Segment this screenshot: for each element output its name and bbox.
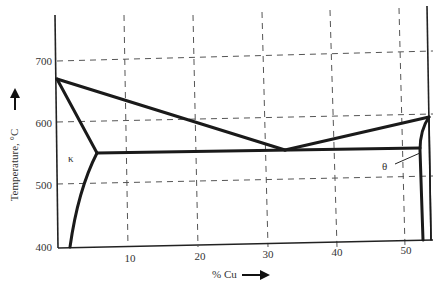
liquidus-right-line xyxy=(285,117,429,150)
kappa-label: κ xyxy=(68,152,74,164)
phase-boundaries xyxy=(57,79,431,247)
svg-text:500: 500 xyxy=(36,179,53,191)
svg-text:50: 50 xyxy=(401,244,413,256)
svg-text:30: 30 xyxy=(263,248,275,260)
svg-text:20: 20 xyxy=(195,250,207,262)
theta-right-line xyxy=(429,117,431,240)
theta-label: θ xyxy=(382,160,387,172)
phase-diagram: κ θ 400 500 600 700 10 20 30 40 50 % Cu … xyxy=(0,0,446,287)
svg-text:10: 10 xyxy=(125,252,137,264)
theta-leader xyxy=(395,153,420,164)
axes xyxy=(55,6,433,248)
y-tick-labels: 400 500 600 700 xyxy=(36,55,53,253)
x-tick-labels: 10 20 30 40 50 xyxy=(125,244,413,264)
svg-text:400: 400 xyxy=(36,241,53,253)
kappa-solvus-line xyxy=(70,153,97,247)
svg-text:40: 40 xyxy=(332,246,344,258)
y-arrow-icon xyxy=(10,88,20,110)
theta-left-line xyxy=(420,117,429,240)
x-arrow-icon xyxy=(242,270,270,280)
svg-text:600: 600 xyxy=(36,117,53,129)
svg-text:700: 700 xyxy=(36,55,53,67)
eutectic-line xyxy=(97,148,420,153)
x-axis-label: % Cu xyxy=(212,268,237,280)
y-axis-label: Temperature, °C xyxy=(8,129,20,202)
